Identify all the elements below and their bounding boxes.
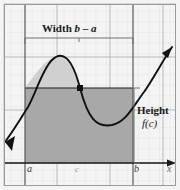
height-label-text: Height bbox=[137, 104, 169, 116]
width-label-minus: – bbox=[80, 22, 91, 34]
mean-value-theorem-figure: Width b – a Heightf(c) a c b x bbox=[0, 0, 180, 190]
height-label: Heightf(c) bbox=[137, 105, 169, 129]
intersection-dot bbox=[77, 85, 83, 91]
axis-label-x: x bbox=[167, 164, 171, 175]
lower-dark-rectangle bbox=[25, 88, 133, 163]
axis-label-a: a bbox=[27, 164, 32, 175]
axis-label-b: b bbox=[134, 164, 139, 175]
width-label: Width b – a bbox=[42, 23, 97, 35]
width-label-text: Width bbox=[42, 22, 75, 34]
width-label-a: a bbox=[91, 22, 97, 34]
axis-label-c: c bbox=[75, 165, 79, 174]
height-label-value: f(c) bbox=[142, 118, 169, 130]
